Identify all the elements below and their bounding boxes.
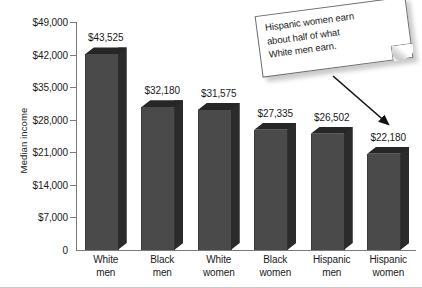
x-axis-category-label: Whitemen (74, 254, 138, 279)
bar-side-face (344, 127, 353, 250)
y-axis-tick-mark (70, 22, 77, 23)
bar-front-face (85, 54, 119, 250)
bar-side-face (400, 147, 409, 250)
bar (198, 103, 240, 250)
y-axis-tick-label: $35,000 (10, 82, 68, 93)
bar (141, 100, 183, 250)
bar (85, 47, 127, 250)
bar-front-face (254, 130, 288, 250)
bar (311, 127, 353, 250)
x-axis-category-label: Hispanicmen (300, 254, 364, 279)
bar-front-face (367, 154, 401, 250)
y-axis-tick-mark (70, 185, 77, 186)
y-axis-tick-label: $49,000 (10, 17, 68, 28)
x-axis-category-label: Whitewomen (187, 254, 251, 279)
y-axis-tick-labels: $49,000$42,000$35,000$28,000$21,000$14,0… (8, 0, 68, 288)
x-axis-category-label: Hispanicwomen (356, 254, 420, 279)
bar (367, 147, 409, 250)
y-axis-tick-label: $7,000 (10, 212, 68, 223)
x-axis-category-label: Blackwomen (243, 254, 307, 279)
bar-value-label: $26,502 (302, 112, 362, 123)
bar-side-face (118, 47, 127, 250)
bar-value-label: $43,525 (76, 32, 136, 43)
bar-value-label: $31,575 (189, 88, 249, 99)
x-axis-category-label: Blackmen (130, 254, 194, 279)
bar-value-label: $32,180 (132, 85, 192, 96)
y-axis-tick-label: $14,000 (10, 179, 68, 190)
x-axis-line (76, 250, 416, 251)
bar-front-face (311, 134, 345, 250)
bar-side-face (287, 123, 296, 250)
y-axis-tick-label: $28,000 (10, 114, 68, 125)
bar (254, 123, 296, 250)
y-axis-tick-mark (70, 152, 77, 153)
y-axis-tick-label: $21,000 (10, 147, 68, 158)
y-axis-tick-mark (70, 120, 77, 121)
bar-value-label: $27,335 (245, 108, 305, 119)
bar-value-label: $22,180 (358, 132, 418, 143)
y-axis-tick-label: 0 (10, 245, 68, 256)
bar-side-face (231, 103, 240, 250)
y-axis-tick-label: $42,000 (10, 49, 68, 60)
bar-side-face (174, 100, 183, 250)
bar-front-face (141, 107, 175, 250)
y-axis-tick-mark (70, 217, 77, 218)
bar-chart: Median income $49,000$42,000$35,000$28,0… (0, 0, 422, 288)
bar-front-face (198, 110, 232, 250)
y-axis-tick-mark (70, 55, 77, 56)
y-axis-tick-mark (70, 87, 77, 88)
